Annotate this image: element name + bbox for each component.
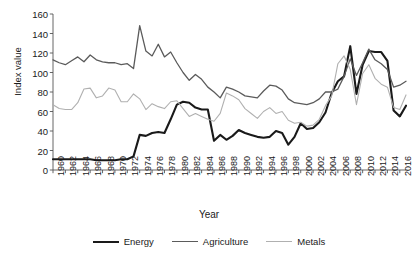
legend-label-agriculture: Agriculture <box>203 236 248 247</box>
legend-label-energy: Energy <box>124 236 154 247</box>
x-axis-tick-labels: 1960196219641966196819701972197419761978… <box>0 0 418 260</box>
legend-item-metals: Metals <box>266 236 325 247</box>
x-tick-label: 2004 <box>329 156 338 176</box>
x-tick-label: 2010 <box>367 156 376 176</box>
x-tick-label: 1996 <box>280 156 289 176</box>
x-tick-label: 2002 <box>317 156 326 176</box>
legend-swatch-metals <box>266 241 292 242</box>
x-tick-label: 1970 <box>119 156 128 176</box>
chart-legend: Energy Agriculture Metals <box>0 236 418 247</box>
x-tick-label: 2016 <box>404 156 413 176</box>
legend-label-metals: Metals <box>297 236 325 247</box>
x-tick-label: 1990 <box>243 156 252 176</box>
x-tick-label: 1986 <box>218 156 227 176</box>
line-chart: Index value 160140120100806040200 196019… <box>0 0 418 260</box>
legend-swatch-agriculture <box>172 241 198 242</box>
x-tick-label: 1966 <box>94 156 103 176</box>
legend-item-agriculture: Agriculture <box>172 236 248 247</box>
x-tick-label: 1994 <box>268 156 277 176</box>
x-tick-label: 1988 <box>230 156 239 176</box>
x-tick-label: 1998 <box>292 156 301 176</box>
x-tick-label: 1976 <box>156 156 165 176</box>
x-tick-label: 1980 <box>181 156 190 176</box>
x-tick-label: 2006 <box>342 156 351 176</box>
x-tick-label: 1968 <box>107 156 116 176</box>
x-tick-label: 2014 <box>391 156 400 176</box>
x-tick-label: 1992 <box>255 156 264 176</box>
x-tick-label: 1978 <box>168 156 177 176</box>
x-tick-label: 1964 <box>82 156 91 176</box>
x-tick-label: 1962 <box>69 156 78 176</box>
legend-item-energy: Energy <box>93 236 154 247</box>
x-tick-label: 2012 <box>379 156 388 176</box>
x-tick-label: 1972 <box>131 156 140 176</box>
x-tick-label: 1982 <box>193 156 202 176</box>
x-tick-label: 1984 <box>206 156 215 176</box>
legend-swatch-energy <box>93 241 119 243</box>
x-tick-label: 2008 <box>354 156 363 176</box>
x-axis-title: Year <box>0 209 418 220</box>
x-tick-label: 2000 <box>305 156 314 176</box>
x-tick-label: 1960 <box>57 156 66 176</box>
x-tick-label: 1974 <box>144 156 153 176</box>
